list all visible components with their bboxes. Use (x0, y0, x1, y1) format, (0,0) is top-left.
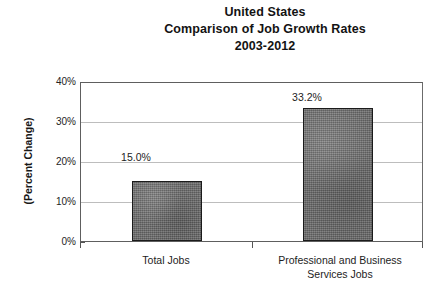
chart-title-line-1: United States (82, 4, 448, 21)
x-category-label-professional-line-2: Services Jobs (252, 267, 428, 281)
chart-title-line-2: Comparison of Job Growth Rates (82, 21, 448, 38)
chart-title: United States Comparison of Job Growth R… (82, 4, 448, 55)
y-tick-label-20: 20% (32, 157, 76, 167)
bar-value-label-professional-business-services-jobs: 33.2% (272, 92, 342, 103)
y-tick-label-10: 10% (32, 197, 76, 207)
bar-professional-business-services-jobs (303, 108, 373, 241)
x-tick-mark-left (80, 242, 81, 248)
x-category-label-professional-business-services-jobs: Professional and Business Services Jobs (252, 253, 428, 281)
x-category-label-total-jobs: Total Jobs (86, 253, 246, 267)
chart-title-line-3: 2003-2012 (82, 38, 448, 55)
bar-value-label-total-jobs: 15.0% (101, 152, 171, 163)
x-category-label-total-jobs-line-1: Total Jobs (142, 254, 189, 266)
x-tick-mark-middle (252, 242, 253, 248)
y-axis-tick-labels: 40% 30% 20% 10% 0% (26, 0, 76, 299)
bar-total-jobs (132, 181, 202, 241)
x-category-label-professional-line-1: Professional and Business (252, 253, 428, 267)
y-tick-label-30: 30% (32, 117, 76, 127)
y-tick-label-40: 40% (32, 77, 76, 87)
x-tick-mark-right (422, 242, 423, 248)
y-tick-label-0: 0% (32, 237, 76, 247)
